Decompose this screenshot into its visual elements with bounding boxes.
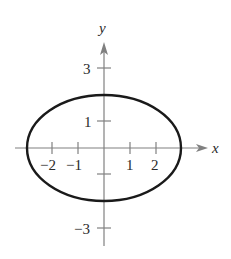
x-tick-label-neg2: −2 — [40, 157, 56, 173]
y-tick-label-neg3: −3 — [74, 221, 90, 237]
y-tick-label-1: 1 — [84, 114, 92, 130]
ellipse-graph: y x −2 −1 1 2 3 1 −3 — [0, 0, 231, 259]
x-tick-label-1: 1 — [126, 157, 134, 173]
y-axis-label: y — [97, 20, 106, 36]
x-axis-label: x — [211, 140, 219, 156]
x-tick-label-2: 2 — [151, 157, 159, 173]
x-tick-label-neg1: −1 — [66, 157, 82, 173]
y-tick-label-3: 3 — [83, 61, 91, 77]
